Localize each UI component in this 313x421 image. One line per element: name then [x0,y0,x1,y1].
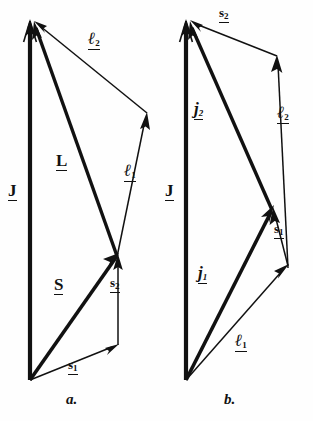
label-b-s1: s1 [274,222,284,239]
panel-b-group [180,19,289,380]
label-b-J: J [165,182,174,201]
label-a-J: J [8,182,17,201]
vector-b-J [180,19,193,380]
label-a-S: S [54,276,63,295]
figure-root: J L S ℓ2 ℓ1 s2 s1 a. J j2 j1 s2 ℓ2 s1 ℓ1… [0,0,313,421]
label-b-j1: j1 [198,264,207,284]
panel-a-group [24,19,150,380]
label-a-s2: s2 [110,276,120,293]
label-b-l1: ℓ1 [235,332,247,352]
label-b-s2: s2 [219,6,229,23]
label-b-l2: ℓ2 [277,104,289,124]
vector-a-s2 [113,254,123,345]
vector-a-l1 [117,112,150,257]
vector-a-L-upper [32,21,117,256]
label-a-s1: s1 [68,358,78,375]
label-a-l2: ℓ2 [88,30,100,50]
vector-b-j1 [186,205,274,380]
caption-panel-b: b. [224,392,235,407]
label-b-j2: j2 [194,100,203,120]
caption-panel-a: a. [66,392,77,407]
vector-diagram-canvas [0,0,313,421]
vector-a-J [24,19,37,380]
label-a-L: L [56,152,67,171]
label-a-l1: ℓ1 [124,162,136,182]
